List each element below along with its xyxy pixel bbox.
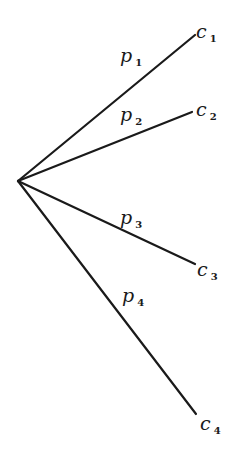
probability-label-p2: p2 [120,105,142,124]
outcome-label-c1: c1 [196,22,217,41]
outcome-symbol: c [200,412,211,434]
outcome-symbol: c [197,258,208,280]
outcome-symbol: c [196,98,207,120]
probability-label-p4: p4 [122,286,144,305]
outcome-label-c2: c2 [196,100,217,119]
branch-line-4 [18,181,196,414]
outcome-subscript: 2 [210,111,217,122]
outcome-subscript: 4 [214,425,221,436]
branch-line-1 [18,35,195,181]
probability-symbol: p [120,103,132,125]
probability-subscript: 1 [135,57,142,68]
probability-symbol: p [122,284,134,306]
probability-subscript: 2 [135,116,142,127]
branch-line-3 [18,181,195,264]
outcome-subscript: 3 [211,271,218,282]
outcome-symbol: c [196,20,207,42]
probability-label-p3: p3 [120,208,142,227]
decision-tree-diagram [0,0,231,458]
outcome-label-c4: c4 [200,414,221,433]
probability-label-p1: p1 [120,46,142,65]
probability-symbol: p [120,206,132,228]
outcome-subscript: 1 [210,33,217,44]
probability-subscript: 4 [137,297,144,308]
branch-line-2 [18,112,192,181]
probability-symbol: p [120,44,132,66]
outcome-label-c3: c3 [197,260,218,279]
probability-subscript: 3 [135,219,142,230]
